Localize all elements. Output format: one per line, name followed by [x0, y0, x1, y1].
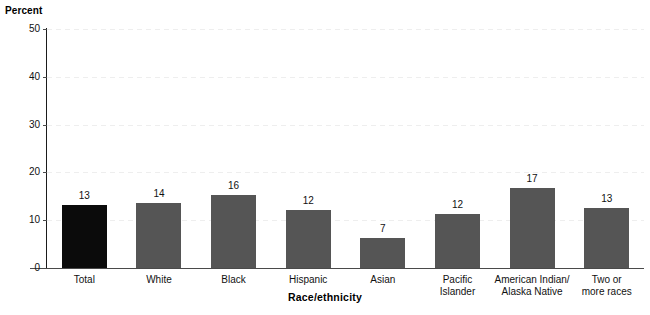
- bar: [211, 195, 256, 268]
- x-axis-line: [30, 268, 644, 269]
- bar: [62, 205, 107, 268]
- bar-value-label: 13: [577, 193, 637, 204]
- gridline-30: [47, 125, 644, 126]
- bar-chart: Percent 01020304050 131416127121713 Tota…: [0, 0, 650, 315]
- bar: [136, 203, 181, 268]
- plot-area: [47, 29, 644, 268]
- y-tick-mark-30: [43, 125, 47, 126]
- bar-value-label: 14: [129, 188, 189, 199]
- y-tick-label: 10: [6, 215, 40, 225]
- y-tick-mark-20: [43, 172, 47, 173]
- y-tick-label: 50: [6, 24, 40, 34]
- y-tick-mark-10: [43, 220, 47, 221]
- bar-value-label: 7: [353, 223, 413, 234]
- y-tick-mark-40: [43, 77, 47, 78]
- y-tick-label: 20: [6, 167, 40, 177]
- gridline-50: [47, 29, 644, 30]
- bar-value-label: 12: [278, 195, 338, 206]
- x-axis-title: Race/ethnicity: [0, 291, 650, 303]
- bar-value-label: 13: [54, 190, 114, 201]
- y-tick-label: 40: [6, 72, 40, 82]
- bar: [360, 238, 405, 268]
- y-axis-title: Percent: [5, 5, 42, 16]
- y-tick-label: 0: [6, 263, 40, 273]
- y-tick-label: 30: [6, 120, 40, 130]
- bar: [584, 208, 629, 268]
- y-tick-mark-50: [43, 29, 47, 30]
- bar: [286, 210, 331, 268]
- gridline-40: [47, 77, 644, 78]
- bar-value-label: 12: [427, 199, 487, 210]
- bar-value-label: 16: [204, 180, 264, 191]
- y-tick-mark-0: [43, 268, 47, 269]
- bar-value-label: 17: [502, 173, 562, 184]
- bar: [435, 214, 480, 268]
- bar: [510, 188, 555, 268]
